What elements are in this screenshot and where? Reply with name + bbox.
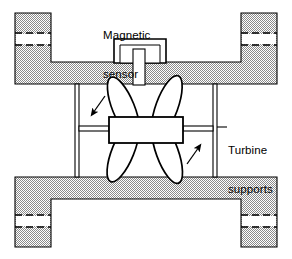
label-magnetic-sensor-line1: Magnetic [103, 29, 150, 42]
label-magnetic-sensor-line2: sensor [103, 68, 150, 81]
label-turbine-supports: Turbine supports [228, 118, 273, 222]
label-turbine-supports-line2: supports [228, 183, 273, 196]
label-magnetic-sensor: Magnetic sensor [103, 3, 150, 107]
turbine-rotor-hub [109, 117, 183, 143]
label-turbine-supports-line1: Turbine [228, 144, 273, 157]
figure-canvas: Magnetic sensor Turbine supports [0, 0, 292, 259]
rotation-arrow-right [187, 147, 199, 164]
